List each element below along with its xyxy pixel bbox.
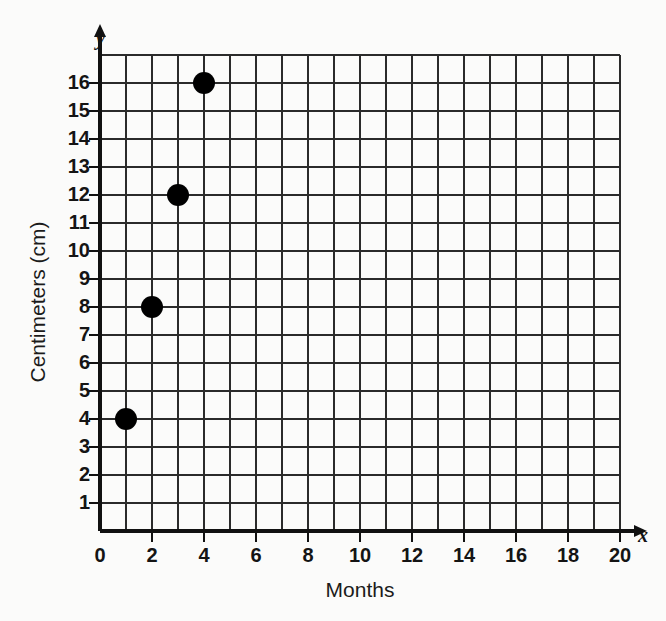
y-tick-label-9: 9 — [50, 268, 90, 288]
x-tick-label-0: 0 — [80, 545, 120, 565]
y-tick-label-10: 10 — [50, 240, 90, 260]
y-tick-label-11: 11 — [50, 212, 90, 232]
y-tick-label-2: 2 — [50, 464, 90, 484]
y-tick-label-1: 1 — [50, 492, 90, 512]
plot-canvas — [0, 0, 666, 621]
y-tick-label-12: 12 — [50, 184, 90, 204]
x-axis-title: Months — [260, 578, 460, 602]
data-point — [167, 184, 189, 206]
data-point — [115, 408, 137, 430]
x-tick-label-20: 20 — [600, 545, 640, 565]
x-tick-label-2: 2 — [132, 545, 172, 565]
y-tick-label-4: 4 — [50, 408, 90, 428]
data-point — [193, 72, 215, 94]
x-tick-label-12: 12 — [392, 545, 432, 565]
x-tick-label-6: 6 — [236, 545, 276, 565]
scatter-plot-figure: Centimeters (cm) Months y x 16 15 14 13 … — [0, 0, 666, 621]
y-tick-label-14: 14 — [50, 128, 90, 148]
y-tick-label-15: 15 — [50, 100, 90, 120]
y-tick-label-5: 5 — [50, 380, 90, 400]
data-point — [141, 296, 163, 318]
y-axis-title: Centimeters (cm) — [26, 172, 50, 432]
x-tick-label-16: 16 — [496, 545, 536, 565]
x-axis-variable-label: x — [638, 524, 648, 547]
x-tick-label-10: 10 — [340, 545, 380, 565]
y-tick-label-6: 6 — [50, 352, 90, 372]
x-tick-label-14: 14 — [444, 545, 484, 565]
y-axis-variable-label: y — [96, 27, 105, 50]
y-tick-label-3: 3 — [50, 436, 90, 456]
y-tick-label-13: 13 — [50, 156, 90, 176]
x-tick-label-4: 4 — [184, 545, 224, 565]
x-tick-label-18: 18 — [548, 545, 588, 565]
x-tick-label-8: 8 — [288, 545, 328, 565]
y-tick-label-16: 16 — [50, 72, 90, 92]
y-tick-label-8: 8 — [50, 296, 90, 316]
y-tick-label-7: 7 — [50, 324, 90, 344]
